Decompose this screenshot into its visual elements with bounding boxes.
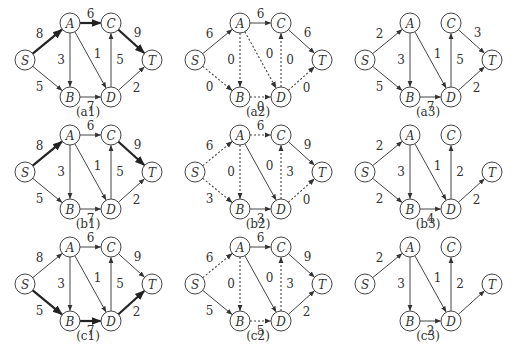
edge-label-C-T: 9 (134, 26, 142, 40)
edge-label-A-C: 6 (87, 231, 95, 245)
panel-c1: 856317592SABCDT(c1) (15, 231, 162, 343)
edge-label-S-B: 2 (376, 192, 384, 206)
node-label: A (235, 17, 245, 31)
node-label: D (105, 203, 116, 217)
edge-label-D-C: 5 (116, 277, 124, 291)
node-B: B (60, 199, 80, 219)
node-C: C (101, 237, 121, 257)
edge-label-D-C: 2 (456, 165, 464, 179)
node-T: T (482, 50, 502, 70)
edge-label-S-A: 2 (376, 139, 384, 153)
edge-label-D-T: 2 (473, 193, 481, 207)
edge-label-D-C: 3 (286, 277, 294, 291)
node-B: B (60, 311, 80, 331)
node-label: T (148, 54, 157, 68)
edge-label-D-C: 3 (286, 165, 294, 179)
node-C: C (441, 125, 461, 145)
edge-label-D-T: 2 (133, 193, 141, 207)
node-label: B (405, 91, 415, 105)
node-label: S (191, 166, 199, 180)
node-A: A (400, 13, 420, 33)
node-label: S (361, 278, 369, 292)
caption-a1: (a1) (76, 105, 100, 119)
edge-label-A-B: 0 (227, 277, 235, 291)
node-C: C (441, 13, 461, 33)
edge-D-T (458, 179, 484, 202)
edge-label-A-B: 3 (57, 277, 65, 291)
edge-D-T (288, 179, 314, 202)
edge-label-A-D: 0 (266, 47, 274, 61)
node-S: S (355, 274, 375, 294)
node-label: C (276, 241, 285, 255)
node-S: S (355, 50, 375, 70)
node-label: T (148, 278, 157, 292)
edge-label-D-T: 2 (133, 305, 141, 319)
node-label: S (21, 278, 29, 292)
node-label: S (21, 166, 29, 180)
node-S: S (15, 50, 35, 70)
node-label: A (405, 17, 415, 31)
node-T: T (482, 274, 502, 294)
node-B: B (230, 87, 250, 107)
node-label: A (65, 17, 75, 31)
caption-b1: (b1) (76, 217, 101, 231)
node-label: A (235, 129, 245, 143)
node-label: A (65, 129, 75, 143)
edge-D-T (118, 67, 144, 90)
edge-label-D-C: 2 (456, 277, 464, 291)
edge-D-T (118, 179, 144, 202)
caption-b2: (b2) (246, 217, 271, 231)
edge-label-A-C: 6 (87, 119, 95, 133)
edge-label-A-D: 1 (434, 271, 442, 285)
panel-b1: 856317592SABCDT(b1) (15, 119, 162, 231)
edge-label-A-D: 1 (434, 159, 442, 173)
max-flow-figure: 856317592SABCDT(a1)606000060SABCDT(a2)25… (0, 0, 516, 349)
edge-D-T (458, 67, 484, 90)
caption-c2: (c2) (246, 329, 270, 343)
node-S: S (185, 274, 205, 294)
edge-label-S-A: 2 (376, 27, 384, 41)
caption-c3: (c3) (416, 329, 440, 343)
edge-label-D-T: 2 (303, 305, 311, 319)
node-S: S (185, 50, 205, 70)
panel-a2: 606000060SABCDT(a2) (185, 7, 332, 119)
node-label: D (445, 91, 456, 105)
edge-label-D-C: 5 (456, 53, 464, 67)
edge-label-A-B: 3 (57, 165, 65, 179)
node-label: C (276, 129, 285, 143)
node-T: T (142, 50, 162, 70)
edge-label-C-T: 9 (134, 138, 142, 152)
node-D: D (101, 87, 121, 107)
panel-b3: 2231422SABCDT(b3) (355, 125, 502, 231)
node-T: T (312, 162, 332, 182)
node-label: B (235, 315, 245, 329)
node-A: A (230, 13, 250, 33)
node-S: S (355, 162, 375, 182)
edge-label-S-B: 5 (206, 304, 214, 318)
node-D: D (101, 311, 121, 331)
node-label: T (488, 54, 497, 68)
edge-label-A-C: 6 (257, 7, 265, 21)
edge-label-S-B: 0 (206, 80, 214, 94)
edge-label-A-B: 3 (57, 53, 65, 67)
panel-c3: 23122SABCDT(c3) (355, 237, 502, 343)
edge-label-A-D: 1 (434, 47, 442, 61)
edge-label-S-B: 5 (36, 304, 44, 318)
node-label: A (405, 241, 415, 255)
edge-label-S-A: 8 (36, 251, 44, 265)
node-C: C (271, 13, 291, 33)
edge-label-C-T: 3 (474, 26, 482, 40)
edge-label-A-D: 1 (94, 47, 102, 61)
node-B: B (400, 87, 420, 107)
edge-label-S-A: 2 (376, 251, 384, 265)
node-label: A (65, 241, 75, 255)
edge-label-A-B: 3 (397, 277, 405, 291)
node-label: B (65, 315, 75, 329)
node-D: D (441, 199, 461, 219)
node-A: A (60, 125, 80, 145)
node-S: S (185, 162, 205, 182)
node-C: C (271, 237, 291, 257)
edge-label-S-A: 6 (206, 139, 214, 153)
edge-label-A-C: 6 (87, 7, 95, 21)
node-label: C (446, 17, 455, 31)
